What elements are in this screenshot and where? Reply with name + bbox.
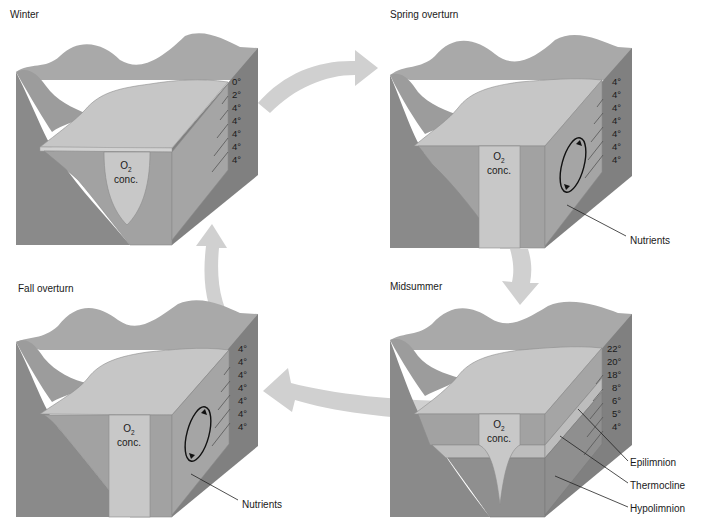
o2-label: conc.: [487, 165, 511, 176]
svg-text:4°: 4°: [612, 128, 621, 139]
svg-text:4°: 4°: [612, 115, 621, 126]
svg-text:4°: 4°: [238, 356, 247, 367]
svg-text:4°: 4°: [232, 141, 241, 152]
o2-label: conc.: [114, 174, 138, 185]
svg-text:4°: 4°: [232, 102, 241, 113]
svg-text:4°: 4°: [238, 369, 247, 380]
epilimnion-label: Epilimnion: [630, 457, 676, 468]
nutrients-label: Nutrients: [242, 499, 282, 510]
svg-text:2°: 2°: [232, 89, 241, 100]
svg-text:4°: 4°: [232, 115, 241, 126]
panel-title: Fall overturn: [18, 283, 74, 294]
svg-text:20°: 20°: [607, 356, 622, 367]
svg-text:22°: 22°: [607, 343, 622, 354]
arrow-spring-to-midsummer: [502, 249, 539, 305]
hypolimnion-label: Hypolimnion: [630, 503, 685, 514]
svg-text:4°: 4°: [612, 102, 621, 113]
svg-text:4°: 4°: [612, 141, 621, 152]
o2-label: conc.: [117, 437, 141, 448]
o2-label: conc.: [487, 433, 511, 444]
svg-text:4°: 4°: [232, 154, 241, 165]
thermocline-label: Thermocline: [630, 480, 685, 491]
nutrients-label: Nutrients: [630, 235, 670, 246]
panel-title: Midsummer: [390, 281, 443, 292]
svg-text:4°: 4°: [612, 154, 621, 165]
svg-text:4°: 4°: [238, 382, 247, 393]
panel-fall: Fall overturn O2 conc. 4° 4° 4° 4° 4° 4°…: [16, 283, 282, 517]
svg-text:4°: 4°: [238, 408, 247, 419]
svg-text:4°: 4°: [612, 76, 621, 87]
svg-text:4°: 4°: [612, 89, 621, 100]
svg-text:18°: 18°: [607, 369, 622, 380]
svg-text:5°: 5°: [612, 408, 621, 419]
svg-text:4°: 4°: [238, 343, 247, 354]
panel-spring: Spring overturn O2 conc. 4° 4° 4° 4° 4° …: [390, 9, 670, 248]
svg-text:0°: 0°: [232, 76, 241, 87]
svg-text:6°: 6°: [612, 395, 621, 406]
lake-turnover-diagram: Winter O2 conc. 0° 2° 4° 4° 4°: [0, 0, 703, 531]
panel-winter: Winter O2 conc. 0° 2° 4° 4° 4°: [10, 9, 258, 245]
svg-text:4°: 4°: [612, 421, 621, 432]
arrow-winter-to-spring: [258, 50, 378, 113]
panel-title: Winter: [10, 9, 40, 20]
svg-text:4°: 4°: [238, 421, 247, 432]
svg-text:4°: 4°: [238, 395, 247, 406]
svg-text:8°: 8°: [612, 382, 621, 393]
panel-title: Spring overturn: [390, 9, 458, 20]
panel-midsummer: Midsummer O2 conc. 22° 20° 18° 8° 6°: [390, 281, 685, 517]
svg-text:4°: 4°: [232, 128, 241, 139]
